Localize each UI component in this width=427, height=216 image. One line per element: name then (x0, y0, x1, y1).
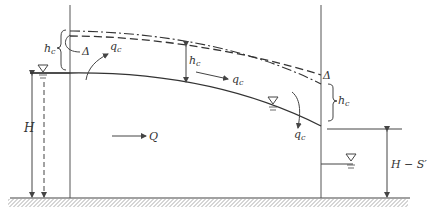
label-H-minus-S: H − S′ (390, 158, 427, 171)
delta-left-leader (65, 35, 80, 52)
qc-middle-arrow (196, 72, 228, 79)
ground (8, 198, 410, 207)
label-H: H (23, 121, 35, 135)
water-table-symbol-left (38, 65, 48, 78)
label-delta-right: Δ (322, 69, 331, 82)
label-Q: Q (149, 130, 158, 143)
label-hc-right: hc (338, 94, 350, 108)
groundwater-capillary-flow-diagram: H hc Δ qc hc qc Δ hc qc Q H − S′ (0, 0, 427, 216)
hc-right-brace (328, 84, 337, 121)
phreatic-surface (30, 73, 321, 126)
label-hc-middle: hc (189, 54, 201, 68)
hc-left-brace (57, 30, 66, 70)
label-delta-left: Δ (81, 45, 90, 58)
label-qc-top-left: qc (110, 40, 122, 54)
water-table-symbol-right (346, 154, 356, 168)
label-hc-left: hc (44, 42, 56, 56)
label-qc-right: qc (294, 128, 306, 142)
label-qc-middle: qc (232, 73, 244, 87)
qc-downward-arrow (292, 92, 300, 128)
